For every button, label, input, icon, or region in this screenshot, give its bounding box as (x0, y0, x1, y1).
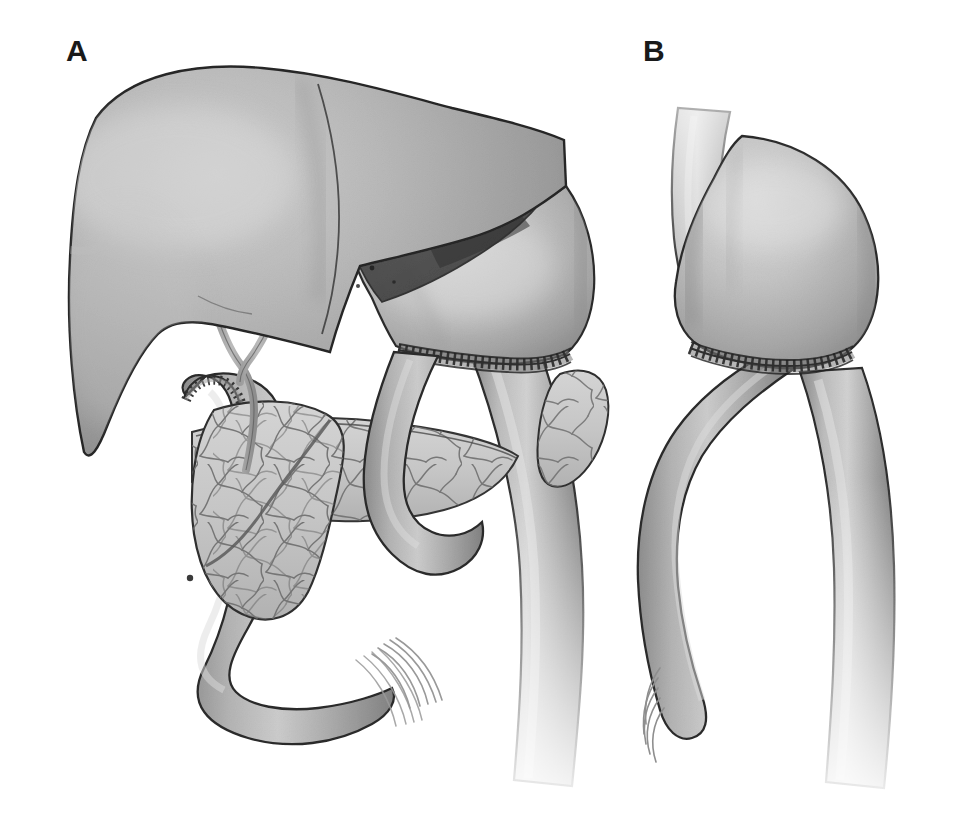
serosal-marking (187, 575, 193, 581)
panel-label-b: B (643, 36, 665, 66)
illustration-canvas (0, 0, 957, 823)
panel-label-a: A (66, 36, 88, 66)
figure-root: A B (0, 0, 957, 823)
